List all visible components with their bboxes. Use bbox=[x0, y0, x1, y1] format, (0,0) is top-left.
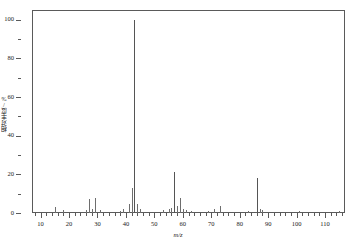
x-tick-minor bbox=[262, 213, 263, 216]
x-tick-minor bbox=[234, 213, 235, 216]
x-tick-major-30 bbox=[97, 213, 98, 218]
x-tick-minor bbox=[257, 213, 258, 216]
x-tick-minor bbox=[63, 213, 64, 216]
x-tick-minor bbox=[206, 213, 207, 216]
peak-mz-43 bbox=[134, 20, 135, 213]
y-tick-label-20: 20 bbox=[8, 171, 15, 178]
x-tick-major-20 bbox=[69, 213, 70, 218]
x-tick-minor bbox=[120, 213, 121, 216]
peak-mz-44 bbox=[137, 204, 138, 213]
y-tick-major-40 bbox=[16, 136, 21, 137]
x-tick-label-90: 90 bbox=[265, 220, 272, 227]
x-tick-minor bbox=[143, 213, 144, 216]
x-tick-label-60: 60 bbox=[180, 220, 187, 227]
x-tick-label-20: 20 bbox=[66, 220, 73, 227]
x-tick-label-100: 100 bbox=[292, 220, 302, 227]
x-tick-minor bbox=[331, 213, 332, 216]
x-tick-label-40: 40 bbox=[123, 220, 130, 227]
x-tick-major-10 bbox=[41, 213, 42, 218]
x-tick-minor bbox=[75, 213, 76, 216]
peak-mz-57 bbox=[174, 172, 175, 213]
x-tick-minor bbox=[200, 213, 201, 216]
x-tick-minor bbox=[285, 213, 286, 216]
peak-mz-41 bbox=[129, 204, 130, 213]
x-tick-major-90 bbox=[268, 213, 269, 218]
x-tick-minor bbox=[194, 213, 195, 216]
x-tick-minor bbox=[52, 213, 53, 216]
peak-mz-42 bbox=[132, 188, 133, 213]
x-tick-minor bbox=[149, 213, 150, 216]
mass-spectrum-figure: 020406080100 相对丰度/% m/z 1020304050607080… bbox=[0, 0, 356, 249]
y-tick-minor-10 bbox=[18, 194, 21, 195]
x-tick-minor bbox=[58, 213, 59, 216]
peak-mz-59 bbox=[180, 198, 181, 213]
x-tick-label-10: 10 bbox=[37, 220, 44, 227]
x-tick-label-50: 50 bbox=[151, 220, 158, 227]
figure-caption bbox=[0, 239, 356, 249]
x-tick-minor bbox=[336, 213, 337, 216]
x-tick-label-30: 30 bbox=[94, 220, 101, 227]
peak-mz-86 bbox=[257, 178, 258, 213]
x-tick-minor bbox=[319, 213, 320, 216]
x-tick-minor bbox=[223, 213, 224, 216]
x-tick-major-60 bbox=[183, 213, 184, 218]
y-tick-major-60 bbox=[16, 97, 21, 98]
x-tick-minor bbox=[177, 213, 178, 216]
x-tick-minor bbox=[92, 213, 93, 216]
x-tick-major-50 bbox=[154, 213, 155, 218]
x-axis-title: m/z bbox=[0, 231, 356, 239]
plot-area bbox=[32, 10, 345, 213]
x-tick-major-40 bbox=[126, 213, 127, 218]
x-tick-minor bbox=[274, 213, 275, 216]
y-tick-label-100: 100 bbox=[4, 16, 14, 23]
y-tick-label-80: 80 bbox=[8, 55, 15, 62]
x-tick-major-100 bbox=[297, 213, 298, 218]
x-tick-minor bbox=[109, 213, 110, 216]
y-tick-minor-50 bbox=[18, 116, 21, 117]
x-tick-minor bbox=[291, 213, 292, 216]
y-tick-minor-90 bbox=[18, 39, 21, 40]
peak-mz-58 bbox=[177, 206, 178, 213]
peak-mz-27 bbox=[89, 199, 90, 213]
x-tick-minor bbox=[217, 213, 218, 216]
x-tick-minor bbox=[166, 213, 167, 216]
x-tick-label-80: 80 bbox=[236, 220, 243, 227]
x-tick-major-110 bbox=[325, 213, 326, 218]
x-tick-minor bbox=[314, 213, 315, 216]
x-tick-minor bbox=[308, 213, 309, 216]
x-tick-minor bbox=[46, 213, 47, 216]
y-tick-major-20 bbox=[16, 174, 21, 175]
peak-mz-73 bbox=[220, 206, 221, 213]
x-tick-label-110: 110 bbox=[320, 220, 330, 227]
x-tick-minor bbox=[342, 213, 343, 216]
x-tick-minor bbox=[160, 213, 161, 216]
x-tick-minor bbox=[302, 213, 303, 216]
x-tick-minor bbox=[115, 213, 116, 216]
y-tick-major-100 bbox=[16, 20, 21, 21]
x-tick-minor bbox=[245, 213, 246, 216]
y-tick-major-80 bbox=[16, 58, 21, 59]
y-axis-title: 相对丰度/% bbox=[1, 96, 10, 132]
x-tick-minor bbox=[137, 213, 138, 216]
y-tick-minor-70 bbox=[18, 78, 21, 79]
x-tick-major-70 bbox=[211, 213, 212, 218]
x-tick-label-70: 70 bbox=[208, 220, 215, 227]
y-tick-minor-30 bbox=[18, 155, 21, 156]
x-tick-minor bbox=[35, 213, 36, 216]
x-tick-minor bbox=[132, 213, 133, 216]
peak-mz-29 bbox=[95, 198, 96, 213]
y-tick-label-40: 40 bbox=[8, 132, 15, 139]
x-tick-minor bbox=[171, 213, 172, 216]
x-tick-minor bbox=[103, 213, 104, 216]
x-tick-minor bbox=[86, 213, 87, 216]
x-tick-minor bbox=[228, 213, 229, 216]
x-tick-major-80 bbox=[240, 213, 241, 218]
x-tick-minor bbox=[251, 213, 252, 216]
x-tick-minor bbox=[189, 213, 190, 216]
x-tick-minor bbox=[280, 213, 281, 216]
x-tick-minor bbox=[80, 213, 81, 216]
